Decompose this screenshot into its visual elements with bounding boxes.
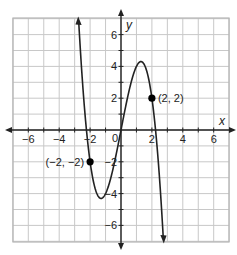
y-axis-up-arrow-icon (118, 9, 124, 16)
x-axis-right-arrow-icon (229, 127, 236, 133)
point-label: (2, 2) (158, 92, 184, 104)
y-axis-label: y (125, 18, 133, 32)
y-tick-label: −6 (104, 219, 117, 231)
x-tick-label: 6 (211, 133, 217, 145)
origin-label: 0 (112, 132, 118, 144)
point-label: (−2, −2) (46, 156, 85, 168)
y-tick-label: 6 (111, 29, 117, 41)
x-tick-label: 4 (180, 133, 186, 145)
point-marker (148, 95, 155, 102)
x-tick-label: −4 (53, 133, 66, 145)
x-axis-left-arrow-icon (5, 127, 12, 133)
y-tick-label: 4 (111, 60, 117, 72)
x-tick-label: 2 (149, 133, 155, 145)
x-tick-label: −2 (84, 133, 97, 145)
point-marker (87, 158, 94, 165)
x-tick-label: −6 (22, 133, 35, 145)
y-axis-down-arrow-icon (118, 243, 124, 250)
y-tick-label: 2 (111, 92, 117, 104)
x-axis-label: x (218, 114, 226, 128)
cubic-function-graph: −6−4−2246642−2−4−6 (−2, −2)(2, 2) x y 0 (0, 0, 237, 255)
